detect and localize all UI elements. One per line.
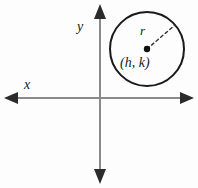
x-axis-left-arrowhead bbox=[4, 92, 18, 104]
y-axis-top-arrowhead bbox=[94, 4, 106, 19]
y-axis-bottom-arrowhead bbox=[94, 169, 106, 184]
center-coordinates-label: (h, k) bbox=[120, 56, 150, 70]
diagram-canvas bbox=[0, 0, 198, 188]
y-axis-label: y bbox=[77, 20, 83, 34]
center-point-dot bbox=[144, 46, 150, 52]
radius-dashed-line bbox=[147, 25, 175, 49]
radius-label: r bbox=[140, 24, 145, 37]
circle-coordinate-diagram: y x r (h, k) bbox=[0, 0, 198, 188]
x-axis-label: x bbox=[24, 78, 30, 92]
x-axis-right-arrowhead bbox=[180, 92, 194, 104]
